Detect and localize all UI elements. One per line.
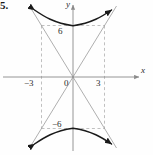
y-axis-label: y — [66, 0, 70, 9]
tick-label-x-neg3: −3 — [24, 79, 34, 88]
graph-canvas — [0, 0, 153, 155]
tick-label-y-neg6: −6 — [52, 120, 62, 129]
hyperbola-figure: 5. y x 6 −6 −3 0 3 — [0, 0, 153, 155]
tick-label-origin: 0 — [64, 79, 69, 88]
problem-number: 5. — [0, 0, 8, 11]
tick-label-x-3: 3 — [96, 79, 101, 88]
x-axis-label: x — [141, 66, 145, 75]
tick-label-y-6: 6 — [58, 27, 63, 36]
